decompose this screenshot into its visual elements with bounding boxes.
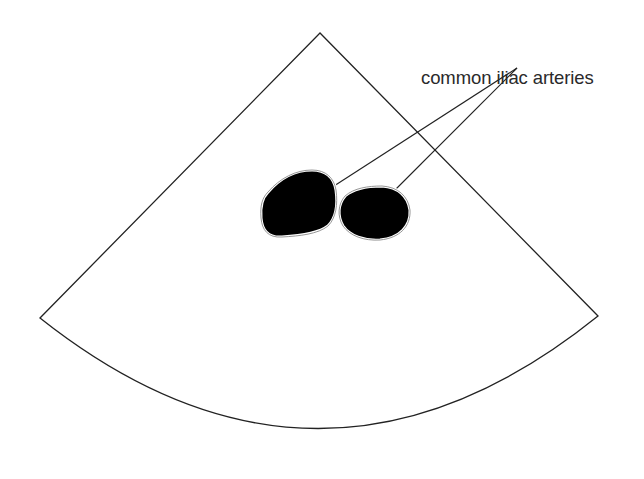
annotation-label: common iliac arteries [421,67,594,89]
right-common-iliac-artery [339,186,410,240]
